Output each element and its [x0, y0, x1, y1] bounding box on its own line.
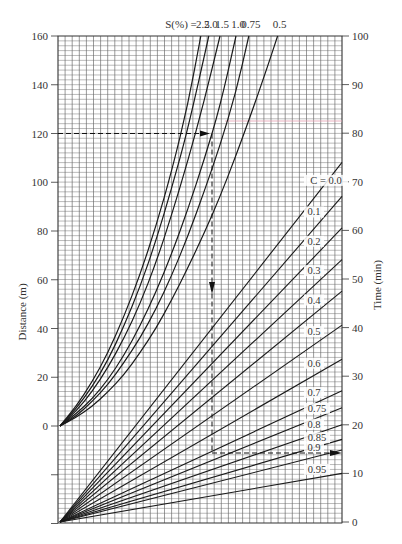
runoff-line: [60, 391, 342, 522]
runoff-label: 0.7: [307, 387, 320, 398]
left-tick-label: 100: [32, 176, 49, 188]
right-tick-label: 80: [352, 127, 364, 139]
left-tick-label: 140: [32, 79, 49, 91]
runoff-label: C = 0.0: [310, 175, 341, 186]
slope-labels: S(%) = 2.52.01.51.00.750.5: [165, 18, 287, 31]
left-tick-label: 80: [37, 225, 49, 237]
right-tick-label: 40: [352, 322, 364, 334]
left-tick-label: 160: [32, 30, 49, 42]
slope-label: 1.5: [215, 18, 229, 30]
runoff-line: [60, 228, 342, 522]
left-tick-label: 40: [37, 323, 49, 335]
right-tick-label: 60: [352, 224, 364, 236]
left-tick-label: 20: [37, 371, 49, 383]
slope-label: 0.5: [273, 18, 287, 30]
right-tick-label: 100: [352, 30, 369, 42]
left-tick-label: 0: [43, 420, 49, 432]
right-tick-label: 50: [352, 273, 364, 285]
arrow-right-icon: [200, 131, 210, 137]
slope-label-prefix: S(%) =: [165, 18, 197, 31]
runoff-label: 0.8: [307, 419, 320, 430]
runoff-line: [60, 291, 342, 522]
runoff-line: [60, 408, 342, 522]
right-tick-label: 10: [352, 467, 364, 479]
runoff-line: [60, 450, 342, 522]
right-axis-title: Time (min): [371, 260, 384, 310]
nomograph-chart: 160140120100806040200 100908070605040302…: [0, 0, 402, 544]
right-axis-time: 1009080706050403020100: [342, 30, 369, 528]
right-tick-label: 30: [352, 370, 364, 382]
left-axis-title: Distance (m): [16, 283, 29, 340]
runoff-label: 0.75: [308, 403, 326, 414]
runoff-label: 0.1: [307, 206, 320, 217]
right-tick-label: 90: [352, 79, 364, 91]
left-axis-distance: 160140120100806040200: [32, 30, 59, 524]
slope-label: 0.75: [241, 18, 261, 30]
grid: [58, 36, 342, 523]
left-tick-label: 60: [37, 274, 49, 286]
runoff-label: 0.3: [307, 265, 320, 276]
runoff-line: [60, 325, 342, 522]
runoff-label: 0.95: [308, 464, 326, 475]
right-tick-label: 0: [352, 516, 358, 528]
right-tick-label: 70: [352, 176, 364, 188]
runoff-label: 0.9: [307, 442, 320, 453]
right-tick-label: 20: [352, 419, 364, 431]
runoff-label: 0.4: [307, 295, 321, 306]
runoff-label: 0.5: [307, 326, 320, 337]
runoff-label: 0.6: [307, 358, 320, 369]
runoff-label: 0.2: [307, 236, 320, 247]
left-tick-label: 120: [32, 128, 49, 140]
